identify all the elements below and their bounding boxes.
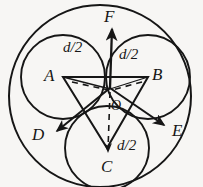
geometry-figure: A B C D E F O d/2 d/2 d/2 xyxy=(0,0,203,187)
label-center-o: O xyxy=(111,99,121,113)
label-dim-left: d/2 xyxy=(63,40,82,55)
dashed-line-o-to-c xyxy=(108,92,110,150)
label-dim-right: d/2 xyxy=(119,47,138,62)
label-vertex-b: B xyxy=(152,66,162,83)
label-vertex-c: C xyxy=(101,158,112,175)
vector-f-arrow xyxy=(110,29,112,88)
label-ray-d: D xyxy=(32,126,44,143)
label-vertex-a: A xyxy=(44,67,54,84)
label-ray-f: F xyxy=(104,8,114,25)
label-dim-bottom: d/2 xyxy=(117,138,136,153)
vector-d-arrow xyxy=(57,88,110,131)
label-ray-e: E xyxy=(172,122,182,139)
